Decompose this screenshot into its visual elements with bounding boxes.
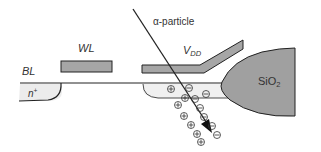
wordline-gate xyxy=(61,61,112,72)
n-plus-diffusion-region xyxy=(19,84,62,101)
wordline-label: WL xyxy=(78,42,95,54)
dram-cell-alpha-particle-diagram: α-particle WL VDD BL n+ SiO2 xyxy=(0,0,321,152)
alpha-particle-label: α-particle xyxy=(153,16,195,27)
vdd-label: VDD xyxy=(183,44,202,58)
bitline-label: BL xyxy=(22,65,35,77)
